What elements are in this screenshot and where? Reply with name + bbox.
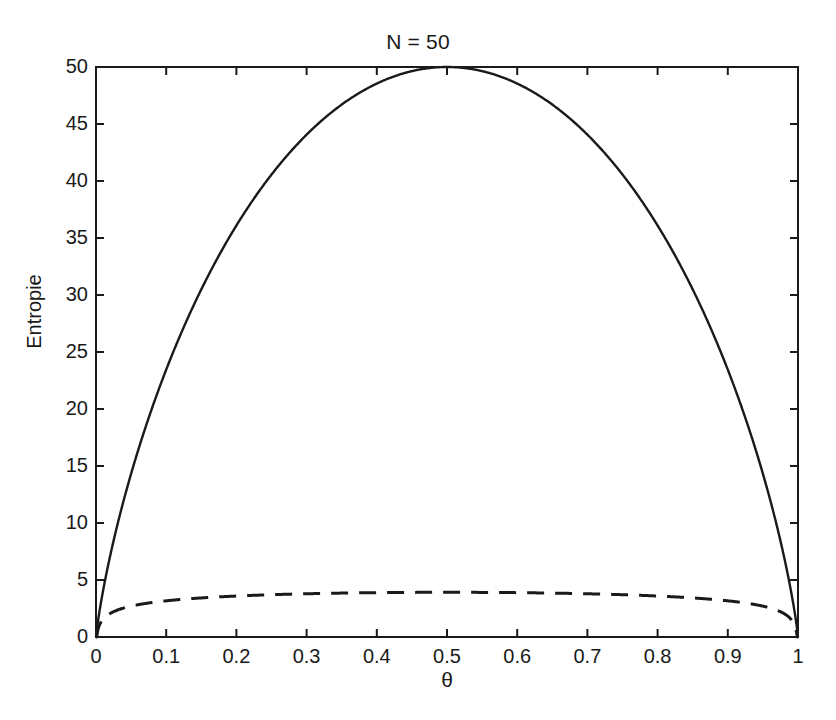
axis-ticks [96,67,798,637]
figure-canvas: N = 50 Entropie θ 05101520253035404550 0… [0,0,836,720]
axes-box [96,67,798,637]
curve-entropy-solid [96,67,798,637]
axes-frame [96,67,798,637]
data-curves [96,67,798,637]
plot-area [0,0,836,720]
